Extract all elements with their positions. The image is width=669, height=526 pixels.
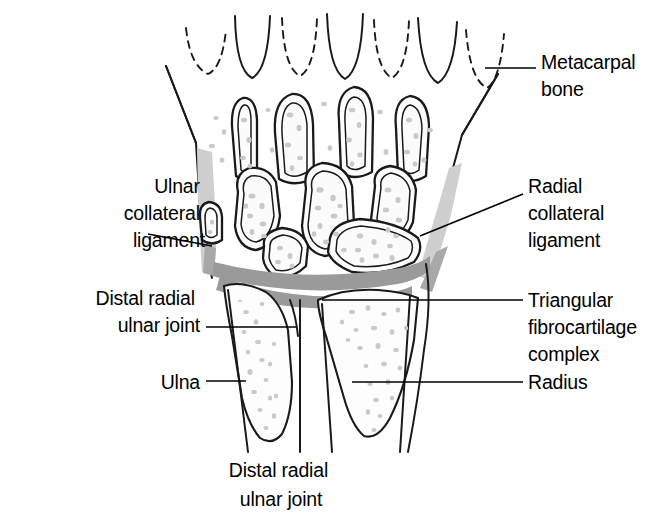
label-distal-radial-ulnar-joint-line2: ulnar joint <box>118 314 201 336</box>
figure-caption: Distal radial ulnar joint <box>229 459 334 510</box>
label-ulnar-collateral-ligament-line2: collateral <box>124 202 200 224</box>
label-radial-collateral-ligament-line3: ligament <box>528 229 601 251</box>
label-metacarpal-bone-line2: bone <box>541 78 584 100</box>
label-ulna-line1: Ulna <box>161 371 201 393</box>
label-distal-radial-ulnar-joint: Distal radial ulnar joint <box>96 287 201 336</box>
carpal-lower-row <box>263 219 420 277</box>
carpal-bone-lower-1-inner <box>269 235 302 271</box>
label-distal-radial-ulnar-joint-line1: Distal radial <box>96 287 195 309</box>
carpal-bone-distal-3-inner <box>345 97 366 170</box>
label-radial-collateral-ligament: Radial collateral ligament <box>528 175 609 251</box>
carpal-bone-distal-2-inner <box>282 103 307 176</box>
metacarpal-base-dashed-2 <box>282 18 317 76</box>
figure-caption-line2: ulnar joint <box>240 488 323 510</box>
metacarpal-base-dashed-1 <box>186 28 226 74</box>
label-ulnar-collateral-ligament: Ulnar collateral ligament <box>124 175 206 251</box>
label-tfcc-line1: Triangular <box>528 289 614 311</box>
carpal-bone-distal-4-inner <box>402 105 422 174</box>
label-ulnar-collateral-ligament-line3: ligament <box>133 229 206 251</box>
label-ulna: Ulna <box>161 371 201 393</box>
forearm-bones-group <box>224 264 429 452</box>
metacarpal-base-solid-3 <box>418 18 457 83</box>
metacarpal-bones-group <box>166 14 504 143</box>
metacarpal-base-dashed-4 <box>466 30 504 88</box>
label-radius: Radius <box>528 371 588 393</box>
label-tfcc-line2: fibrocartilage <box>528 316 637 338</box>
carpal-bones-group <box>200 87 429 277</box>
label-tfcc-line3: complex <box>528 343 600 365</box>
metacarpal-shaft-1 <box>166 66 196 143</box>
label-metacarpal-bone: Metacarpal bone <box>541 51 641 100</box>
metacarpal-base-dashed-3 <box>374 20 409 78</box>
metacarpal-base-solid-2 <box>327 14 363 79</box>
label-ulnar-collateral-ligament-line1: Ulnar <box>154 175 200 197</box>
leader-radial-collateral-ligament <box>420 194 523 236</box>
label-radius-line1: Radius <box>528 371 588 393</box>
anatomy-figure: Metacarpal bone Ulnar collateral ligamen… <box>0 0 669 526</box>
label-metacarpal-bone-line1: Metacarpal <box>541 51 635 73</box>
figure-caption-line1: Distal radial <box>229 459 328 481</box>
label-radial-collateral-ligament-line2: collateral <box>528 202 604 224</box>
ulna-bone <box>224 284 292 441</box>
label-triangular-fibrocartilage-complex: Triangular fibrocartilage complex <box>528 289 642 365</box>
label-radial-collateral-ligament-line1: Radial <box>528 175 582 197</box>
metacarpal-base-solid-1 <box>235 16 270 78</box>
wrist-anatomy-illustration: Metacarpal bone Ulnar collateral ligamen… <box>0 0 669 526</box>
